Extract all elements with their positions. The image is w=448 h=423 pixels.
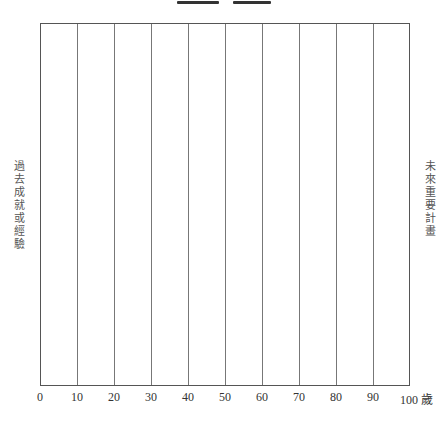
grid-line xyxy=(373,24,374,385)
grid-line xyxy=(114,24,115,385)
x-tick-label: 50 xyxy=(219,390,231,405)
right-label: 未來重要計畫 xyxy=(421,160,437,238)
x-tick-label: 80 xyxy=(330,390,342,405)
x-tick-label: 60 xyxy=(256,390,268,405)
x-tick-label: 90 xyxy=(367,390,379,405)
x-tick-label: 10 xyxy=(71,390,83,405)
grid-line xyxy=(225,24,226,385)
left-label: 過去成就或經驗 xyxy=(10,160,26,251)
grid-line xyxy=(77,24,78,385)
x-tick-label: 100 歲 xyxy=(400,390,433,408)
x-tick-label: 40 xyxy=(182,390,194,405)
grid-line xyxy=(262,24,263,385)
x-tick-label: 0 xyxy=(37,390,43,405)
grid-line xyxy=(336,24,337,385)
grid-line xyxy=(188,24,189,385)
x-tick-label: 70 xyxy=(293,390,305,405)
grid-line xyxy=(299,24,300,385)
x-tick-label: 30 xyxy=(145,390,157,405)
age-grid xyxy=(40,23,410,386)
grid-line xyxy=(151,24,152,385)
title-clipped xyxy=(175,0,285,4)
x-tick-label: 20 xyxy=(108,390,120,405)
